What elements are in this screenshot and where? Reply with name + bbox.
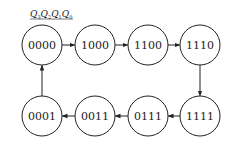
state-label: 1111 (186, 110, 214, 123)
state-label: 0000 (28, 39, 56, 52)
state-node: 1110 (180, 25, 220, 65)
state-node: 0000 (22, 25, 62, 65)
state-diagram: Q3Q2Q1Q0 0000100011001110111101110011000… (0, 0, 231, 145)
state-node: 0001 (22, 96, 62, 136)
state-node: 1000 (75, 25, 115, 65)
state-label: 0011 (81, 110, 109, 123)
state-label: 1000 (81, 39, 109, 52)
state-label: 0001 (28, 110, 56, 123)
state-variable-header: Q3Q2Q1Q0 (30, 9, 72, 20)
state-label: 1110 (186, 39, 214, 52)
state-node: 1100 (128, 25, 168, 65)
state-label: 0111 (134, 110, 162, 123)
transitions (42, 45, 200, 116)
state-node: 0111 (128, 96, 168, 136)
states: 00001000110011101111011100110001 (22, 25, 220, 136)
state-label: 1100 (134, 39, 162, 52)
state-node: 0011 (75, 96, 115, 136)
state-node: 1111 (180, 96, 220, 136)
